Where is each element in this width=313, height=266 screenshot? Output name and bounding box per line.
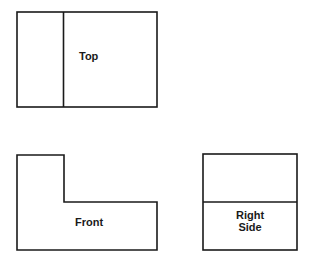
front-view-outline [17,155,157,250]
top-view: Top [17,12,157,107]
orthographic-projection-diagram: Top Front Right Side [0,0,313,266]
right-side-view-label-line1: Right [236,209,264,221]
right-side-view-label-line2: Side [238,221,261,233]
top-view-label: Top [79,50,99,62]
right-side-view: Right Side [203,154,297,250]
front-view: Front [17,155,157,250]
front-view-label: Front [75,216,103,228]
